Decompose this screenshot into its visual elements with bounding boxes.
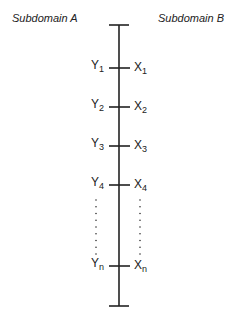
label-x-n: Xn	[134, 259, 147, 274]
ellipsis-dot-left	[95, 219, 97, 221]
ellipsis-dot-left	[95, 213, 97, 215]
ellipsis-dot-right	[139, 240, 141, 242]
label-y-2: Y2	[91, 98, 104, 113]
ellipsis-dot-right	[139, 233, 141, 235]
ellipsis-dot-left	[95, 206, 97, 208]
ellipsis-dot-right	[139, 213, 141, 215]
ellipsis-dot-right	[139, 226, 141, 228]
label-x-3: X3	[134, 139, 147, 154]
ellipsis-dot-right	[139, 253, 141, 255]
label-x-2: X2	[134, 100, 147, 115]
ellipsis-dot-right	[139, 246, 141, 248]
interface-axis-diagram	[0, 0, 240, 323]
ellipsis-dot-left	[95, 233, 97, 235]
label-y-3: Y3	[91, 137, 104, 152]
label-y-1: Y1	[91, 59, 104, 74]
ellipsis-dot-left	[95, 253, 97, 255]
label-x-4: X4	[134, 178, 147, 193]
ellipsis-dot-left	[95, 246, 97, 248]
label-y-n: Yn	[91, 257, 104, 272]
ellipsis-dot-right	[139, 199, 141, 201]
ellipsis-dot-right	[139, 206, 141, 208]
label-y-4: Y4	[91, 176, 104, 191]
ellipsis-dot-left	[95, 226, 97, 228]
ellipsis-dot-left	[95, 240, 97, 242]
label-x-1: X1	[134, 61, 147, 76]
ellipsis-dot-left	[95, 199, 97, 201]
ellipsis-dot-right	[139, 219, 141, 221]
